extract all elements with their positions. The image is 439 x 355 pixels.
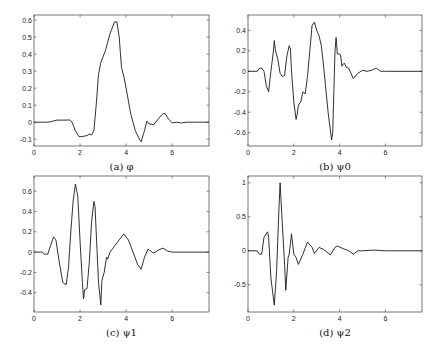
signal-line	[34, 22, 209, 142]
subplot-c: 0246-0.4-0.200.20.40.6(c) ψ1	[20, 176, 209, 338]
y-tick-label: 0.2	[22, 85, 32, 92]
y-tick-label: -0.2	[234, 88, 246, 95]
y-tick-label: 0.2	[236, 47, 246, 54]
y-tick-label: -0.1	[20, 136, 32, 143]
x-tick-label: 0	[32, 315, 36, 322]
y-tick-label: 0.4	[22, 208, 32, 215]
axes-frame	[248, 15, 422, 146]
figure: 0246-0.100.10.20.30.40.50.6(a) φ 0246-0.…	[0, 0, 439, 355]
x-tick-label: 0	[32, 149, 36, 156]
y-tick-label: 0.6	[22, 188, 32, 195]
subplot-a: 0246-0.100.10.20.30.40.50.6(a) φ	[20, 15, 209, 172]
x-tick-label: 6	[383, 149, 387, 156]
y-tick-label: 0.2	[22, 228, 32, 235]
y-tick-label: 0.3	[22, 68, 32, 75]
y-tick-label: -0.5	[234, 281, 246, 288]
subplot-caption: (b) ψ0	[319, 161, 351, 172]
x-tick-label: 4	[338, 149, 342, 156]
y-tick-label: -0.4	[20, 289, 32, 296]
x-tick-label: 4	[124, 149, 128, 156]
axes-frame	[34, 176, 209, 312]
x-tick-label: 2	[78, 315, 82, 322]
subplot-caption: (a) φ	[110, 161, 134, 172]
y-tick-label: -0.4	[234, 109, 246, 116]
y-tick-label: 0.4	[22, 51, 32, 58]
x-tick-label: 6	[383, 315, 387, 322]
x-tick-label: 4	[338, 315, 342, 322]
x-tick-label: 6	[170, 149, 174, 156]
subplot-b: 0246-0.6-0.4-0.200.20.4(b) ψ0	[234, 15, 422, 172]
y-tick-label: 0.5	[236, 213, 246, 220]
y-tick-label: 1	[242, 179, 246, 186]
subplot-d: 0246-0.500.51(d) ψ2	[234, 176, 422, 338]
y-tick-label: 0	[28, 119, 32, 126]
axes-frame	[34, 15, 209, 146]
signal-line	[248, 183, 422, 305]
subplot-caption: (d) ψ2	[319, 327, 351, 338]
y-tick-label: 0	[28, 249, 32, 256]
x-tick-label: 6	[170, 315, 174, 322]
y-tick-label: 0	[242, 247, 246, 254]
y-tick-label: 0.5	[22, 34, 32, 41]
y-tick-label: 0	[242, 68, 246, 75]
x-tick-label: 2	[78, 149, 82, 156]
y-tick-label: 0.1	[22, 102, 32, 109]
x-tick-label: 2	[292, 149, 296, 156]
signal-line	[34, 184, 209, 305]
x-tick-label: 0	[246, 149, 250, 156]
y-tick-label: -0.2	[20, 269, 32, 276]
subplot-caption: (c) ψ1	[106, 327, 137, 338]
x-tick-label: 0	[246, 315, 250, 322]
axes-frame	[248, 176, 422, 312]
signal-line	[248, 22, 422, 140]
y-tick-label: 0.4	[236, 27, 246, 34]
y-tick-label: -0.6	[234, 129, 246, 136]
x-tick-label: 4	[124, 315, 128, 322]
x-tick-label: 2	[292, 315, 296, 322]
y-tick-label: 0.6	[22, 17, 32, 24]
